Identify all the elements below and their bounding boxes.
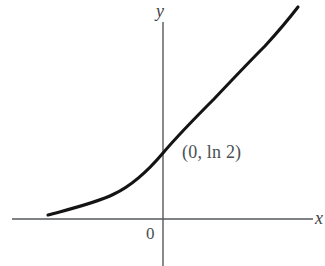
graph-figure: y x 0 (0, ln 2) [0, 0, 325, 266]
y-intercept-annotation: (0, ln 2) [182, 143, 241, 161]
x-axis-label: x [315, 209, 323, 227]
y-axis-label: y [156, 2, 164, 20]
exponential-curve [48, 7, 298, 215]
plot-canvas [0, 0, 325, 266]
origin-label: 0 [146, 225, 155, 242]
